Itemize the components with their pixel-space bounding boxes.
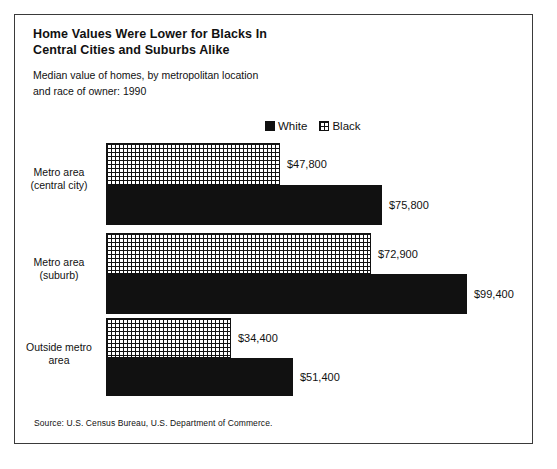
bar-value-label-white: $51,400 — [300, 371, 340, 383]
chart-frame: Home Values Were Lower for Blacks In Cen… — [14, 14, 533, 444]
bar-black — [106, 143, 280, 185]
bar-value-label-white: $75,800 — [389, 199, 429, 211]
category-label: Metro area(central city) — [15, 166, 103, 192]
plot-area: Metro area(central city)$47,800$75,800Me… — [15, 15, 534, 445]
source-note: Source: U.S. Census Bureau, U.S. Departm… — [34, 418, 273, 429]
category-label-line: Outside metro — [15, 341, 103, 354]
bar-white — [106, 358, 293, 396]
bar-value-label-white: $99,400 — [474, 288, 514, 300]
bar-white — [106, 185, 382, 225]
category-label: Metro area(suburb) — [15, 256, 103, 282]
category-label-line: area — [15, 354, 103, 367]
category-label-line: (central city) — [15, 179, 103, 192]
category-label-line: (suburb) — [15, 269, 103, 282]
bar-black — [106, 233, 371, 274]
category-label-line: Metro area — [15, 256, 103, 269]
bar-white — [106, 274, 467, 314]
category-label: Outside metroarea — [15, 341, 103, 367]
bar-value-label-black: $34,400 — [238, 332, 278, 344]
bar-black — [106, 318, 231, 358]
bar-value-label-black: $47,800 — [287, 158, 327, 170]
category-label-line: Metro area — [15, 166, 103, 179]
bar-value-label-black: $72,900 — [378, 248, 418, 260]
